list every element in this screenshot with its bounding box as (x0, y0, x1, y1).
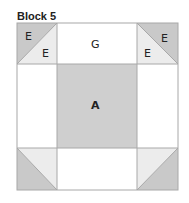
label-center: A (91, 99, 100, 112)
label-top-right-dark: E (161, 32, 168, 45)
label-top-right-light: E (144, 47, 151, 60)
label-top-left-dark: E (25, 30, 32, 43)
middle-left-rect (17, 64, 57, 148)
quilt-block-diagram: E E G E E A (0, 0, 189, 203)
middle-right-rect (137, 64, 178, 148)
label-top-center: G (91, 38, 100, 51)
label-top-left-light: E (42, 47, 49, 60)
bottom-center-rect (57, 148, 137, 190)
